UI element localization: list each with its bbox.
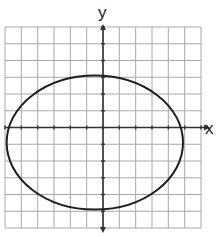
x-axis-label: x (205, 120, 214, 137)
ellipse-curve (7, 76, 183, 210)
y-axis-label: y (98, 4, 107, 21)
curve (7, 76, 183, 210)
coordinate-plane: y x (0, 0, 220, 236)
axes (5, 24, 210, 233)
graph-svg (0, 0, 220, 236)
